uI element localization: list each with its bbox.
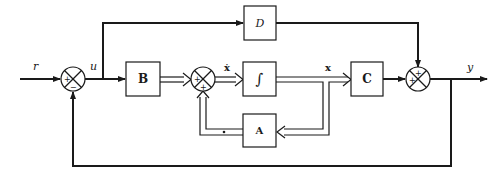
signal-label-x: x	[325, 62, 332, 73]
sum2-sign-bottom: +	[200, 83, 207, 92]
sum3-sign-left: +	[409, 76, 416, 85]
sum3-sign-top: +	[415, 69, 422, 78]
dot-marker	[223, 131, 226, 134]
signal-label-y: y	[466, 61, 474, 74]
block-integrator-label: ∫	[256, 70, 264, 88]
signal-label-u: u	[90, 60, 97, 73]
sum1-sign-bottom: −	[70, 83, 77, 92]
signal-label-xdot: ẋ	[224, 62, 231, 73]
block-d-label: D	[255, 17, 265, 30]
block-b-label: B	[138, 72, 148, 86]
block-c-label: C	[362, 72, 372, 86]
signal-label-r: r	[33, 60, 39, 73]
d-output-line	[276, 23, 418, 67]
feedthrough-line-to-d	[103, 23, 243, 79]
block-a-label: A	[255, 125, 264, 136]
state-space-diagram: + − + + + + B ∫ D C A r u ẋ x y	[0, 0, 503, 178]
